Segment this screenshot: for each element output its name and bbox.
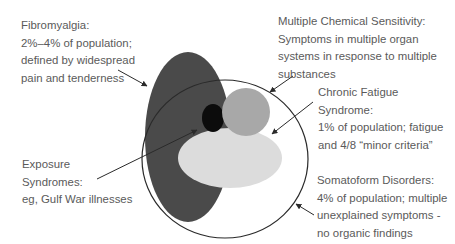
label-line: Syndromes: xyxy=(22,174,132,192)
label-line: Multiple Chemical Sensitivity: xyxy=(278,13,437,31)
label-line: Symptoms in multiple organ xyxy=(278,31,437,49)
exposure-blob xyxy=(202,104,224,132)
cfs-arrow xyxy=(272,102,313,134)
cfs-label: Chronic Fatigue Syndrome: 1% of populati… xyxy=(318,84,443,154)
label-line: 1% of population; fatigue xyxy=(318,119,443,137)
label-line: systems in response to multiple xyxy=(278,48,437,66)
label-line: pain and tenderness xyxy=(21,70,135,88)
label-line: Fibromyalgia: xyxy=(21,17,135,35)
label-line: Somatoform Disorders: xyxy=(317,172,447,190)
somatoform-label: Somatoform Disorders: 4% of population; … xyxy=(317,172,447,242)
somatoform-arrow xyxy=(296,204,314,215)
label-line: 2%–4% of population; xyxy=(21,35,135,53)
label-line: 4% of population; multiple xyxy=(317,190,447,208)
mcs-label: Multiple Chemical Sensitivity: Symptoms … xyxy=(278,13,437,83)
label-line: substances xyxy=(278,66,437,84)
exposure-label: Exposure Syndromes: eg, Gulf War illness… xyxy=(22,156,132,209)
label-line: no organic findings xyxy=(317,225,447,243)
label-line: and 4/8 “minor criteria” xyxy=(318,137,443,155)
cfs-ellipse xyxy=(178,128,282,188)
label-line: defined by widespread xyxy=(21,52,135,70)
fibromyalgia-label: Fibromyalgia: 2%–4% of population; defin… xyxy=(21,17,135,87)
label-line: Exposure xyxy=(22,156,132,174)
label-line: Syndrome: xyxy=(318,102,443,120)
label-line: unexplained symptoms - xyxy=(317,207,447,225)
label-line: Chronic Fatigue xyxy=(318,84,443,102)
mcs-circle xyxy=(222,88,270,136)
label-line: eg, Gulf War illnesses xyxy=(22,191,132,209)
